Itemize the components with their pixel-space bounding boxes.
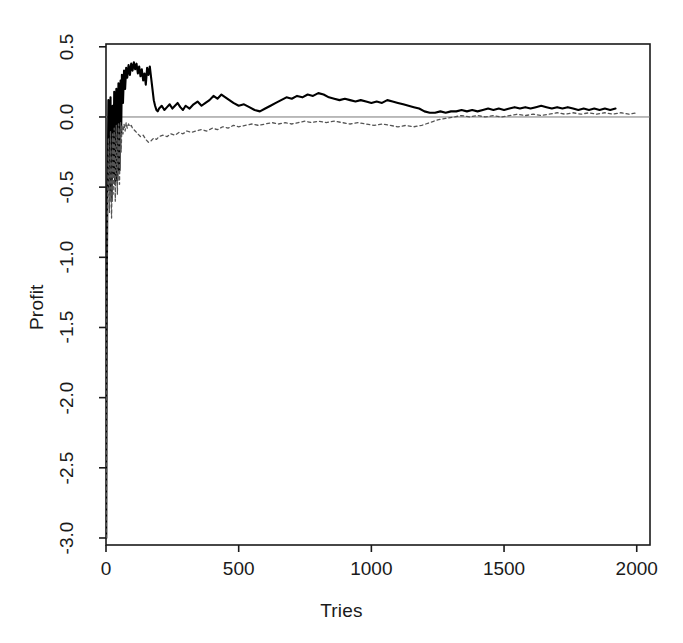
y-tick-label: -3.0 (56, 512, 78, 564)
plot-frame (106, 44, 650, 545)
y-tick-label: 0.5 (56, 21, 78, 73)
chart-figure: Profit Tries 05001000150020000.50.0-0.5-… (0, 0, 683, 643)
dashed-profit-series (106, 113, 636, 538)
plot-canvas (0, 0, 683, 643)
x-tick-label: 500 (189, 558, 289, 580)
y-tick-label: -1.0 (56, 231, 78, 283)
y-tick-label: 0.0 (56, 91, 78, 143)
y-tick-label: -0.5 (56, 161, 78, 213)
y-tick-label: -1.5 (56, 301, 78, 353)
x-tick-label: 1500 (454, 558, 554, 580)
x-tick-label: 1000 (321, 558, 421, 580)
x-tick-label: 2000 (587, 558, 683, 580)
x-axis-title: Tries (0, 600, 683, 622)
data-series-layer (106, 62, 636, 538)
y-tick-label: -2.5 (56, 442, 78, 494)
axes-layer (99, 44, 650, 552)
y-tick-label: -2.0 (56, 372, 78, 424)
y-axis-title: Profit (26, 284, 48, 330)
